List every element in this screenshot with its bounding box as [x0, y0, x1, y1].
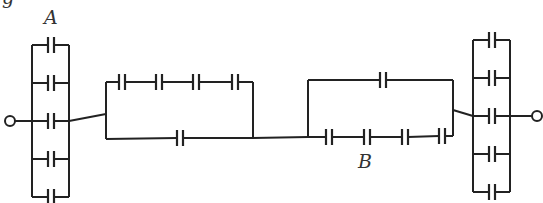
capacitor-circuit-diagram: g A	[0, 0, 543, 203]
capacitor	[473, 146, 510, 162]
capacitor	[32, 37, 69, 53]
right-parallel-bank	[473, 32, 510, 200]
capacitor	[32, 75, 69, 91]
label-a: A	[42, 6, 58, 28]
capacitor	[473, 108, 510, 124]
connector-wire	[453, 110, 473, 116]
block2-parallel-network	[308, 72, 453, 145]
block1-parallel-network	[106, 74, 253, 146]
capacitor	[32, 189, 69, 203]
connector-wire	[253, 137, 308, 138]
connector-wire	[69, 114, 106, 121]
left-terminal	[5, 116, 32, 126]
capacitor	[32, 151, 69, 167]
left-parallel-bank	[32, 37, 69, 203]
label-b: B	[357, 150, 372, 172]
capacitor	[473, 32, 510, 48]
capacitor	[473, 70, 510, 86]
capacitor	[32, 113, 69, 129]
caption-fragment: g	[2, 0, 14, 8]
right-terminal	[510, 111, 542, 121]
capacitor	[473, 184, 510, 200]
